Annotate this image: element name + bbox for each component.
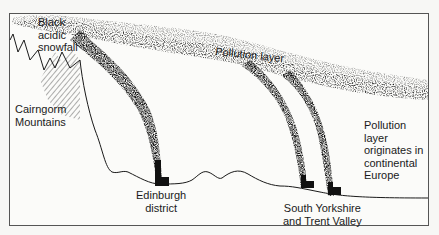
label-line: Black bbox=[38, 16, 78, 29]
label-edinburgh-district: Edinburgh district bbox=[136, 189, 186, 214]
label-line: originates in bbox=[364, 144, 423, 157]
south-yorkshire-factory-1 bbox=[301, 175, 314, 188]
edinburgh-factory bbox=[155, 160, 169, 186]
label-line: district bbox=[136, 202, 186, 215]
label-south-yorkshire-trent-valley: South Yorkshire and Trent Valley bbox=[283, 202, 362, 227]
south-yorkshire-plume-2 bbox=[282, 70, 334, 196]
label-line: Cairngorm bbox=[15, 103, 66, 116]
label-line: continental bbox=[364, 157, 423, 170]
label-line: Pollution bbox=[364, 119, 423, 132]
edinburgh-plume bbox=[70, 30, 162, 178]
label-line: layer bbox=[364, 132, 423, 145]
label-line: snowfall bbox=[38, 41, 78, 54]
label-line: Edinburgh bbox=[136, 189, 186, 202]
label-pollution-origin: Pollution layer originates in continenta… bbox=[364, 119, 423, 182]
label-cairngorm-mountains: Cairngorm Mountains bbox=[15, 103, 66, 128]
label-line: South Yorkshire bbox=[283, 202, 362, 215]
label-line: Mountains bbox=[15, 116, 66, 129]
label-line: acidic bbox=[38, 29, 78, 42]
label-black-acidic-snowfall: Black acidic snowfall bbox=[38, 16, 78, 54]
south-yorkshire-factory-2 bbox=[328, 182, 341, 195]
label-line: and Trent Valley bbox=[283, 215, 362, 228]
label-line: Europe bbox=[364, 169, 423, 182]
